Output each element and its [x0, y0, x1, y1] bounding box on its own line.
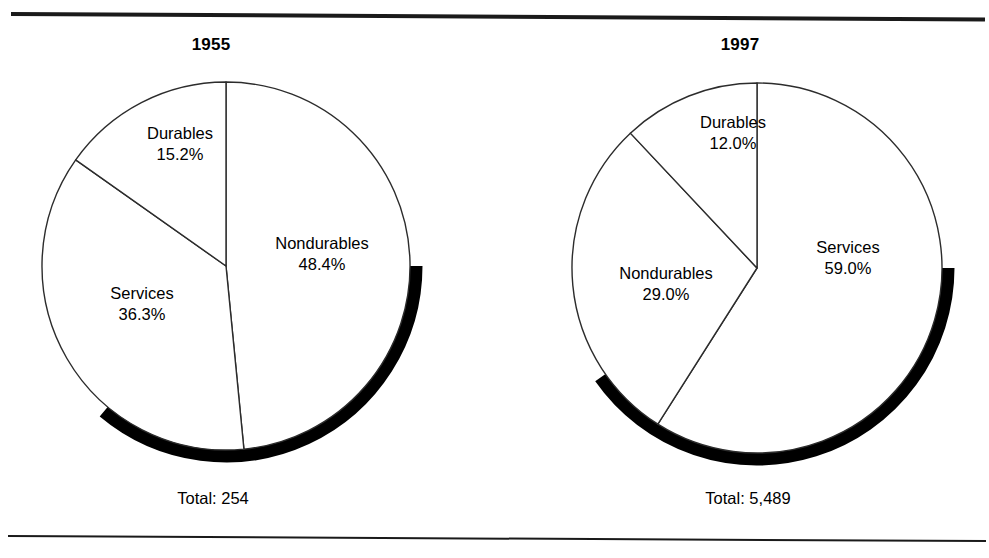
chart-panel-1997: 1997 Durables 12.0% Services 59.0% Nondu… [495, 0, 989, 558]
pie-label-durables-1997: Durables 12.0% [671, 112, 795, 154]
chart-total-1997: Total: 5,489 [501, 489, 989, 508]
pie-chart-1997 [495, 0, 989, 558]
chart-panel-1955: 1955 Durables 15.2% Nondurables 48.4% Se… [0, 0, 494, 558]
chart-total-1955: Total: 254 [0, 489, 460, 508]
figure-pie-comparison: 1955 Durables 15.2% Nondurables 48.4% Se… [0, 0, 989, 558]
pie-label-services-1955: Services 36.3% [80, 283, 204, 325]
pie-label-services-1997: Services 59.0% [786, 237, 910, 279]
pie-label-durables-1955: Durables 15.2% [118, 123, 242, 165]
pie-label-nondurables-1955: Nondurables 48.4% [251, 233, 393, 275]
pie-label-nondurables-1997: Nondurables 29.0% [595, 263, 737, 305]
pie-chart-1955 [0, 0, 494, 558]
